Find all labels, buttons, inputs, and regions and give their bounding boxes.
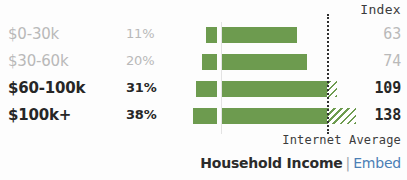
index-value: 109 [375, 79, 402, 97]
chart-footer: Household Income|Embed [0, 155, 401, 171]
index-value: 74 [383, 52, 401, 70]
category-label: $0-30k [8, 25, 59, 43]
percent-label: 38% [126, 107, 157, 122]
internet-average-line [327, 14, 329, 134]
bar-overflow [327, 108, 356, 124]
bar-main [222, 27, 297, 43]
category-label: $100k+ [8, 106, 71, 124]
category-label: $60-100k [8, 79, 85, 97]
index-value: 138 [375, 106, 402, 124]
chart-title: Household Income [200, 155, 342, 171]
chart-rows: $0-30k 11% 63 $30-60k 20% 74 $60-100k 31… [0, 22, 407, 128]
category-label: $30-60k [8, 52, 68, 70]
footer-separator: | [343, 155, 354, 171]
percent-label: 20% [126, 53, 154, 68]
chart-row: $60-100k 31% 109 [0, 76, 407, 102]
bar-main [222, 108, 327, 124]
bar-stub [196, 81, 217, 97]
bar-stub [206, 27, 217, 43]
household-income-index-chart: Index $0-30k 11% 63 $30-60k 20% 74 $60-1… [0, 0, 407, 180]
embed-link[interactable]: Embed [353, 155, 401, 171]
percent-label: 31% [126, 80, 157, 95]
bar-main [222, 81, 327, 97]
bar-stub [202, 54, 217, 70]
bar-main [222, 54, 307, 70]
internet-average-caption: Internet Average [0, 133, 401, 147]
chart-row: $30-60k 20% 74 [0, 49, 407, 75]
index-column-header: Index [360, 2, 401, 17]
bar-stub [193, 108, 217, 124]
index-value: 63 [383, 25, 401, 43]
percent-label: 11% [126, 26, 154, 41]
chart-row: $100k+ 38% 138 [0, 103, 407, 129]
chart-row: $0-30k 11% 63 [0, 22, 407, 48]
